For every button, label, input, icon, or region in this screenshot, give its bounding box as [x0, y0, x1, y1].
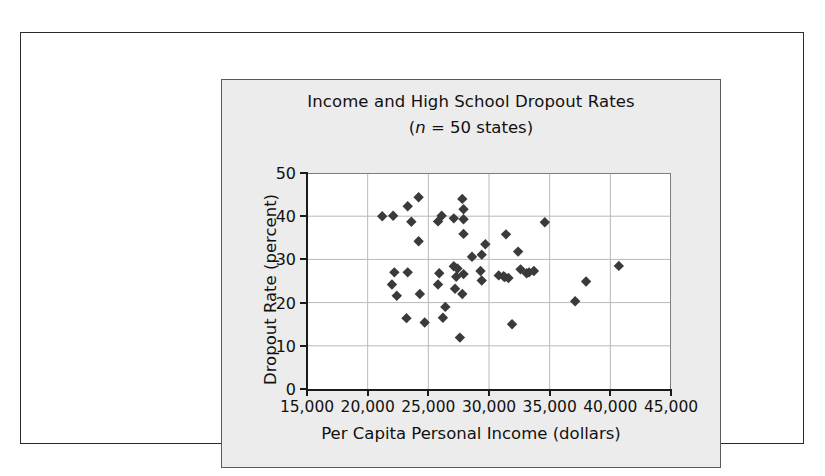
plot-area	[307, 173, 671, 389]
chart-title: Income and High School Dropout Rates	[222, 92, 720, 111]
x-tick-mark	[306, 389, 308, 396]
data-point-marker	[449, 213, 459, 223]
data-point-marker	[455, 332, 465, 342]
x-tick-label: 15,000	[280, 398, 334, 416]
data-point-marker	[570, 296, 580, 306]
data-point-marker	[540, 217, 550, 227]
x-tick-label: 25,000	[401, 398, 455, 416]
y-tick-label: 20	[224, 293, 296, 312]
y-tick-mark	[300, 258, 307, 260]
x-tick-label: 20,000	[341, 398, 395, 416]
y-tick-mark	[300, 215, 307, 217]
data-point-marker	[389, 267, 399, 277]
chart-subtitle-n-symbol: n	[415, 118, 425, 137]
data-point-marker	[477, 275, 487, 285]
x-tick-mark	[670, 389, 672, 396]
x-tick-mark	[367, 389, 369, 396]
data-point-marker	[581, 276, 591, 286]
y-tick-label: 30	[224, 250, 296, 269]
data-point-marker	[614, 261, 624, 271]
data-point-marker	[513, 246, 523, 256]
chart-panel: Income and High School Dropout Rates (n …	[221, 79, 721, 468]
gridlines	[307, 173, 671, 389]
data-point-marker	[403, 201, 413, 211]
data-point-marker	[434, 268, 444, 278]
y-tick-mark	[300, 172, 307, 174]
data-point-marker	[458, 204, 468, 214]
data-point-marker	[501, 229, 511, 239]
figure-page: Income and High School Dropout Rates (n …	[0, 0, 825, 476]
chart-subtitle-suffix: = 50 states)	[426, 118, 533, 137]
y-tick-label: 0	[224, 380, 296, 399]
data-point-marker	[406, 217, 416, 227]
data-point-marker	[413, 236, 423, 246]
data-point-marker	[440, 302, 450, 312]
y-tick-mark	[300, 345, 307, 347]
x-tick-mark	[427, 389, 429, 396]
data-point-marker	[413, 192, 423, 202]
x-axis-title: Per Capita Personal Income (dollars)	[222, 424, 720, 443]
data-point-marker	[458, 214, 468, 224]
data-point-marker	[507, 319, 517, 329]
y-tick-label: 10	[224, 336, 296, 355]
data-point-marker	[438, 313, 448, 323]
y-tick-mark	[300, 302, 307, 304]
data-point-marker	[475, 266, 485, 276]
data-markers	[377, 192, 624, 343]
y-axis-title: Dropout Rate (percent)	[261, 170, 280, 410]
data-point-marker	[387, 279, 397, 289]
chart-subtitle: (n = 50 states)	[222, 118, 720, 137]
x-tick-mark	[488, 389, 490, 396]
data-point-marker	[377, 211, 387, 221]
x-tick-label: 30,000	[462, 398, 516, 416]
data-point-marker	[403, 267, 413, 277]
x-tick-label: 35,000	[523, 398, 577, 416]
scatter-plot-svg	[307, 173, 671, 389]
x-tick-label: 45,000	[644, 398, 698, 416]
x-tick-mark	[609, 389, 611, 396]
x-tick-mark	[549, 389, 551, 396]
data-point-marker	[401, 313, 411, 323]
data-point-marker	[457, 194, 467, 204]
data-point-marker	[415, 289, 425, 299]
data-point-marker	[467, 252, 477, 262]
x-tick-label: 40,000	[583, 398, 637, 416]
y-tick-label: 40	[224, 207, 296, 226]
data-point-marker	[392, 290, 402, 300]
y-axis-line	[306, 172, 308, 391]
y-tick-label: 50	[224, 164, 296, 183]
data-point-marker	[388, 211, 398, 221]
data-point-marker	[477, 249, 487, 259]
data-point-marker	[433, 279, 443, 289]
data-point-marker	[458, 229, 468, 239]
figure-outer-frame: Income and High School Dropout Rates (n …	[20, 32, 804, 444]
